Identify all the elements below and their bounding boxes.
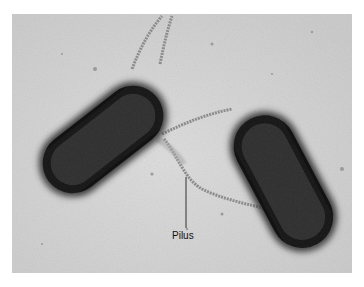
micrograph: Pilus — [12, 14, 352, 273]
pilus-label: Pilus — [172, 231, 194, 241]
